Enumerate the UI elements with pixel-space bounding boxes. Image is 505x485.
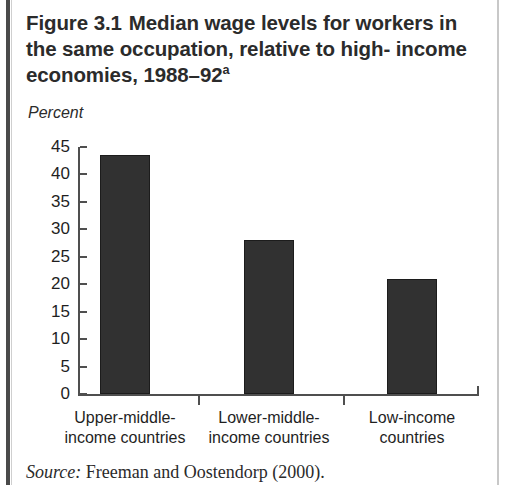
bar (244, 240, 294, 394)
y-axis-tick-label: 0 (28, 385, 70, 402)
x-axis-category-label-line: countries (332, 428, 492, 448)
y-axis-tick-label: 25 (28, 248, 70, 265)
y-axis-tick (80, 201, 87, 203)
bar (100, 155, 150, 394)
y-axis-tick-label: 15 (28, 303, 70, 320)
x-axis-tick (198, 396, 200, 405)
y-axis-tick (80, 173, 87, 175)
y-axis-tick (80, 366, 87, 368)
x-axis-tick (343, 396, 345, 405)
source-text: Freeman and Oostendorp (2000). (86, 462, 325, 482)
x-axis-end-tick (477, 386, 479, 395)
y-axis-tick (80, 393, 87, 395)
y-axis-tick-label: 35 (28, 193, 70, 210)
figure-source-note: Source: Freeman and Oostendorp (2000). (26, 462, 325, 483)
x-axis-category-label: Low-incomecountries (332, 408, 492, 448)
x-axis-category-label: Upper-middle-income countries (45, 408, 205, 448)
bar (387, 279, 437, 394)
y-axis-tick (80, 283, 87, 285)
figure-page: Figure 3.1Median wage levels for workers… (0, 0, 505, 485)
y-axis-tick-label: 10 (28, 330, 70, 347)
y-axis-tick-label: 20 (28, 275, 70, 292)
source-label: Source: (26, 462, 81, 482)
y-axis-tick (80, 146, 87, 148)
y-axis-tick-label: 45 (28, 138, 70, 155)
y-axis-tick (80, 338, 87, 340)
y-axis-tick-label: 30 (28, 220, 70, 237)
bar-chart-plot: 051015202530354045 Upper-middle-income c… (0, 0, 505, 485)
y-axis-tick (80, 228, 87, 230)
x-axis-category-label-line: Lower-middle- (189, 408, 349, 428)
y-axis-line (78, 147, 80, 396)
y-axis-tick-label: 40 (28, 165, 70, 182)
y-axis-tick (80, 256, 87, 258)
x-axis-category-label: Lower-middle-income countries (189, 408, 349, 448)
y-axis-tick (80, 311, 87, 313)
x-axis-category-label-line: income countries (189, 428, 349, 448)
x-axis-category-label-line: Upper-middle- (45, 408, 205, 428)
x-axis-line (78, 394, 479, 396)
x-axis-category-label-line: Low-income (332, 408, 492, 428)
x-axis-category-label-line: income countries (45, 428, 205, 448)
y-axis-tick-label: 5 (28, 358, 70, 375)
